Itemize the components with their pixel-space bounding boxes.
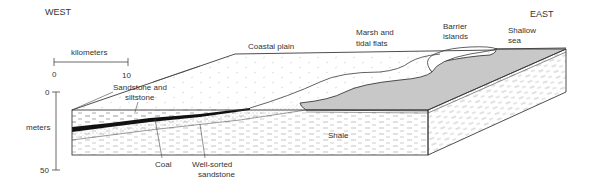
scale-bar: kilometers 0 10	[52, 48, 131, 80]
label-sandstone-2: siltstone	[125, 93, 155, 102]
scale-start: 0	[52, 70, 57, 79]
label-sea-2: sea	[508, 36, 521, 45]
label-coal: Coal	[155, 160, 172, 169]
label-barrier-1: Barrier	[443, 22, 467, 31]
label-coastal-plain: Coastal plain	[248, 42, 294, 51]
label-marsh-1: Marsh and	[356, 28, 394, 37]
depth-top: 0	[45, 88, 50, 97]
label-barrier-2: islands	[443, 32, 468, 41]
label-shale: Shale	[328, 131, 349, 140]
label-sandstone-1: Sandstone and	[113, 83, 167, 92]
label-marsh-2: tidal flats	[356, 39, 388, 48]
label-wellsorted-2: sandstone	[198, 170, 235, 179]
east-label: EAST	[530, 9, 554, 19]
scale-end: 10	[122, 71, 131, 80]
scale-unit: kilometers	[71, 48, 107, 57]
depth-bottom: 50	[40, 166, 49, 175]
stratigraphy-block-diagram: WEST EAST kilometers 0 10 0 meters 50 Co…	[0, 0, 592, 179]
depth-axis: 0 meters 50	[26, 88, 60, 175]
depth-unit: meters	[26, 123, 50, 132]
west-label: WEST	[45, 7, 72, 17]
front-face	[72, 104, 428, 155]
label-sea-1: Shallow	[508, 26, 536, 35]
label-wellsorted-1: Well-sorted	[192, 160, 232, 169]
